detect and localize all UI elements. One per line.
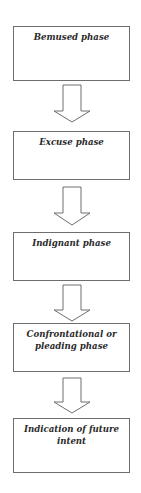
- node-excuse-phase: Excuse phase: [13, 131, 130, 180]
- down-arrow-icon: [52, 187, 92, 227]
- down-arrow-icon: [52, 378, 92, 418]
- node-label: Bemused phase: [14, 31, 129, 43]
- node-bemused-phase: Bemused phase: [13, 26, 130, 81]
- node-label: Indignant phase: [14, 237, 129, 249]
- node-label: Confrontational or pleading phase: [14, 328, 129, 352]
- down-arrow-icon: [52, 285, 92, 325]
- node-indignant-phase: Indignant phase: [13, 232, 130, 281]
- down-arrow-icon: [52, 85, 92, 125]
- node-label: Excuse phase: [14, 136, 129, 148]
- node-confrontational-or-pleading-phase: Confrontational or pleading phase: [13, 323, 130, 372]
- node-indication-of-future-intent: Indication of future intent: [13, 418, 130, 473]
- node-label: Indication of future intent: [14, 423, 129, 447]
